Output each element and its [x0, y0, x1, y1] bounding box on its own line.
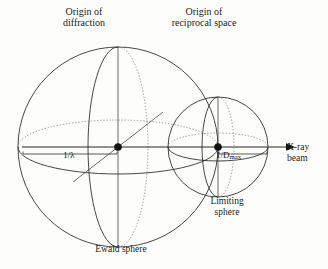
label-xray-beam-line1: X-ray — [287, 142, 327, 153]
label-one-over-dmax-base: 1/D — [216, 150, 230, 160]
label-origin-of-reciprocal-space-line2: reciprocal space — [152, 17, 256, 28]
label-origin-of-reciprocal-space: Origin of reciprocal space — [152, 6, 256, 28]
label-one-over-lambda: 1/λ — [52, 150, 86, 160]
ewald-radius-upper-right — [118, 112, 163, 147]
diagram-canvas — [0, 0, 328, 269]
label-one-over-dmax: 1/Dmax — [216, 150, 262, 161]
label-ewald-sphere: Ewald sphere — [75, 244, 167, 255]
label-xray-beam-line2: beam — [287, 153, 327, 164]
label-origin-of-diffraction: Origin of diffraction — [38, 6, 130, 28]
label-origin-of-diffraction-line2: diffraction — [38, 17, 130, 28]
label-origin-of-reciprocal-space-line1: Origin of — [152, 6, 256, 17]
origin-of-diffraction-node — [114, 143, 121, 150]
label-limiting-sphere-line2: sphere — [196, 207, 258, 218]
label-limiting-sphere: Limiting sphere — [196, 196, 258, 217]
ewald-sphere-diagram: Origin of diffraction Origin of reciproc… — [0, 0, 328, 269]
label-one-over-dmax-subscript: max — [230, 153, 242, 160]
label-xray-beam: X-ray beam — [287, 142, 327, 163]
label-origin-of-diffraction-line1: Origin of — [38, 6, 130, 17]
label-limiting-sphere-line1: Limiting — [196, 196, 258, 207]
